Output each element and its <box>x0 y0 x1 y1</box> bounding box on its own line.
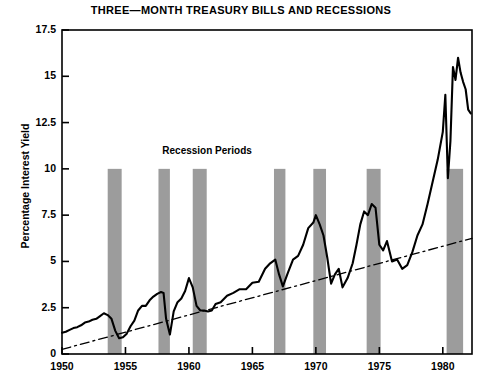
recession-band <box>193 169 207 354</box>
plot-frame <box>62 30 472 354</box>
x-axis-tick-label: 1950 <box>37 360 87 372</box>
data-line-treasury-bills <box>62 58 471 338</box>
data-line-trend <box>62 238 472 349</box>
y-axis-tick-label: 5 <box>20 254 56 266</box>
y-axis-tick-label: 15 <box>20 69 56 81</box>
plot-area <box>0 0 482 385</box>
y-axis-tick-label: 10 <box>20 162 56 174</box>
recession-periods-annotation: Recession Periods <box>162 145 251 156</box>
recession-band <box>313 169 326 354</box>
x-axis-tick-label: 1980 <box>418 360 468 372</box>
x-axis-tick-label: 1955 <box>100 360 150 372</box>
y-axis-tick-label: 12.5 <box>20 116 56 128</box>
x-axis-tick-label: 1975 <box>354 360 404 372</box>
recession-band <box>367 169 381 354</box>
y-axis-tick-label: 17.5 <box>20 23 56 35</box>
recession-band <box>447 169 464 354</box>
x-axis-tick-label: 1970 <box>291 360 341 372</box>
y-axis-tick-label: 2.5 <box>20 301 56 313</box>
x-axis-tick-label: 1960 <box>164 360 214 372</box>
x-axis-tick-label: 1965 <box>227 360 277 372</box>
chart-container: THREE—MONTH TREASURY BILLS AND RECESSION… <box>0 0 482 385</box>
y-axis-tick-label: 0 <box>20 347 56 359</box>
y-axis-tick-label: 7.5 <box>20 208 56 220</box>
